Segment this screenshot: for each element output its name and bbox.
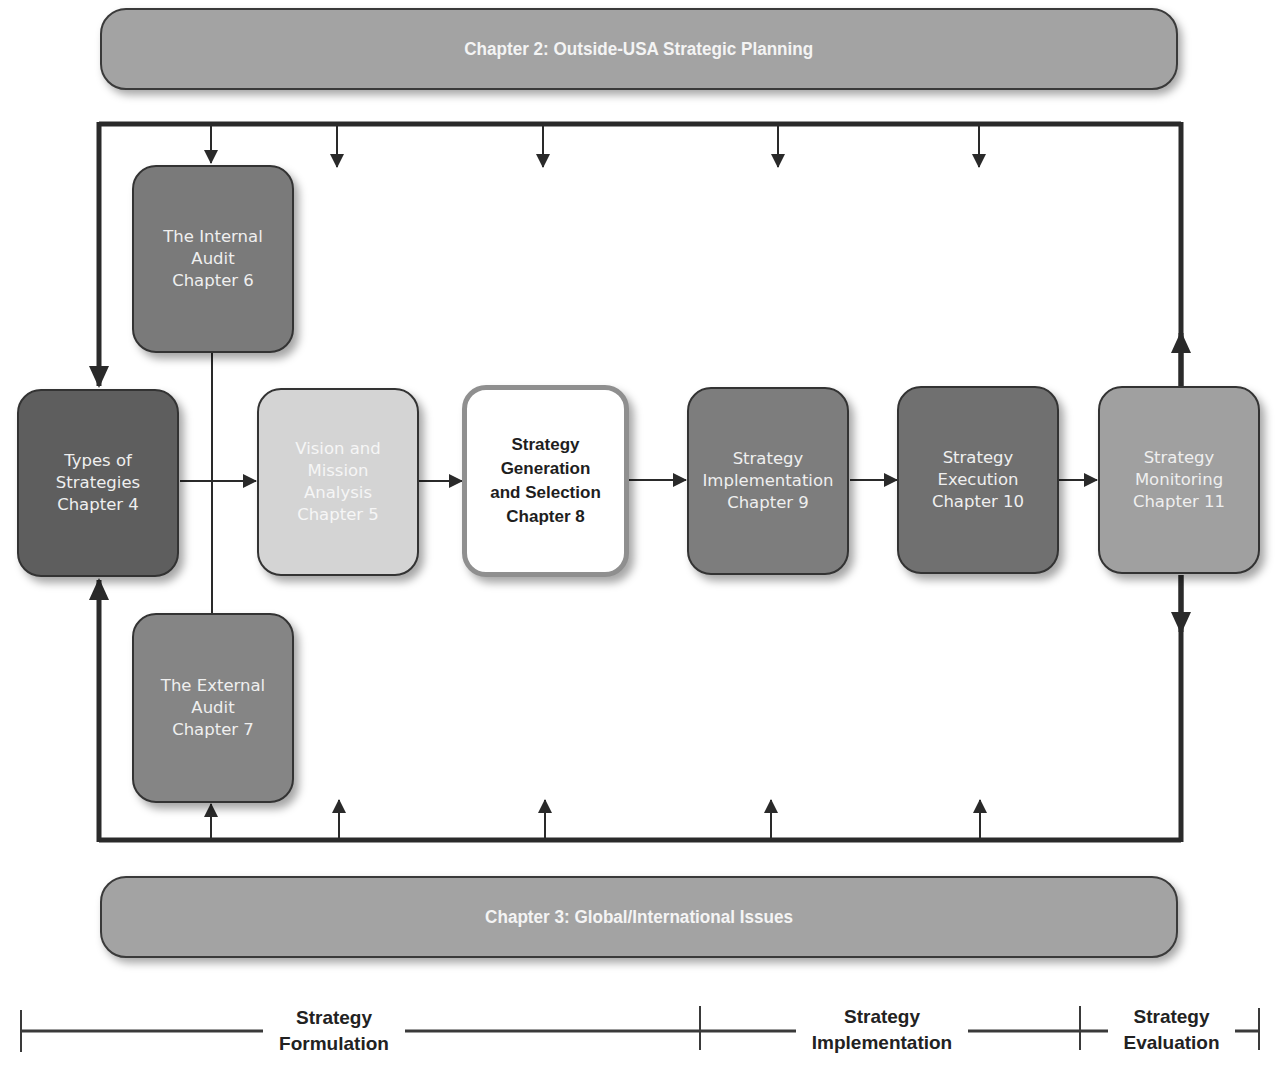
- generation-selection-label: Strategy Generation and Selection Chapte…: [490, 433, 601, 529]
- box-strategy-generation-selection: Strategy Generation and Selection Chapte…: [462, 385, 629, 577]
- box-strategy-execution: Strategy Execution Chapter 10: [897, 386, 1059, 574]
- box-internal-audit: The Internal Audit Chapter 6: [132, 165, 294, 353]
- box-strategy-monitoring: Strategy Monitoring Chapter 11: [1098, 386, 1260, 574]
- internal-audit-label: The Internal Audit Chapter 6: [163, 226, 263, 292]
- types-of-strategies-label: Types of Strategies Chapter 4: [56, 450, 140, 516]
- box-strategy-implementation: Strategy Implementation Chapter 9: [687, 387, 849, 575]
- implementation-label: Strategy Implementation Chapter 9: [702, 448, 833, 514]
- box-external-audit: The External Audit Chapter 7: [132, 613, 294, 803]
- execution-label: Strategy Execution Chapter 10: [932, 447, 1024, 513]
- box-vision-mission: Vision and Mission Analysis Chapter 5: [257, 388, 419, 576]
- box-types-of-strategies: Types of Strategies Chapter 4: [17, 389, 179, 577]
- monitoring-label: Strategy Monitoring Chapter 11: [1133, 447, 1225, 513]
- external-audit-label: The External Audit Chapter 7: [161, 675, 265, 741]
- vision-mission-label: Vision and Mission Analysis Chapter 5: [295, 438, 381, 526]
- phase-implementation: Strategy Implementation: [796, 1004, 968, 1056]
- phase-timeline: [21, 1006, 1259, 1052]
- banner-global-issues: Chapter 3: Global/International Issues: [100, 876, 1178, 958]
- phase-evaluation: Strategy Evaluation: [1108, 1004, 1235, 1056]
- banner-bottom-label: Chapter 3: Global/International Issues: [485, 907, 793, 928]
- phase-formulation: Strategy Formulation: [263, 1005, 405, 1057]
